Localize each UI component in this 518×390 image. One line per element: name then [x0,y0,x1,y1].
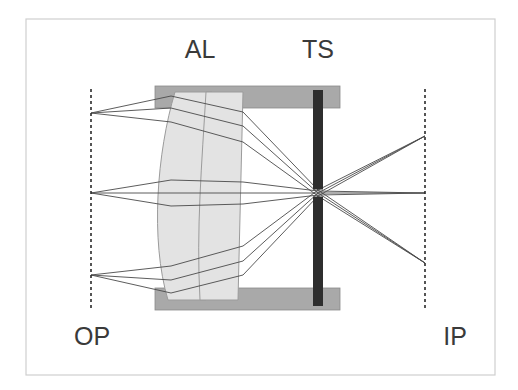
lens-rear-element [199,92,243,300]
diagram-canvas: AL TS OP IP [0,0,518,390]
test-stop-upper-blade [313,90,323,190]
label-image-plane: IP [443,322,467,350]
label-test-stop: TS [302,35,334,63]
test-stop-element [313,90,323,306]
label-object-plane: OP [74,322,110,350]
test-stop-lower-blade [313,197,323,307]
optical-diagram-figure: AL TS OP IP [0,0,518,390]
label-aspheric-lens: AL [185,35,216,63]
